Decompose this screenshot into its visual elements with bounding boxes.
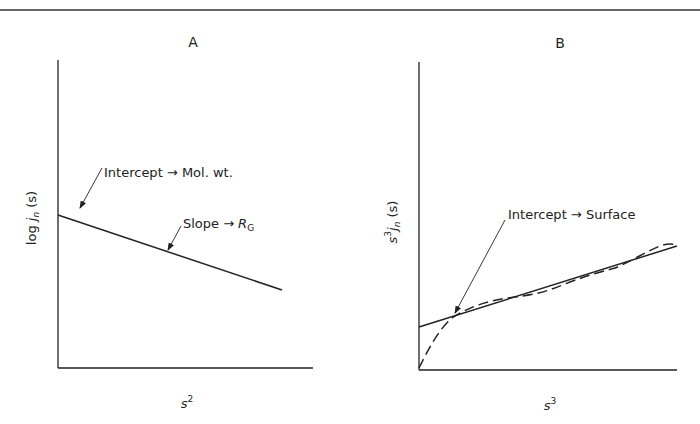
panel-a-slope-pointer (168, 226, 181, 250)
panel-b-title: B (555, 35, 565, 51)
panel-a: A log jn (s) s2 Intercept → Mol. wt. Slo… (24, 34, 313, 411)
panel-b: B s3jn (s) s3 Intercept → Surface (383, 35, 677, 413)
panel-b-y-label: s3jn (s) (383, 201, 402, 244)
arrow-right-icon: → (571, 207, 582, 222)
panel-a-intercept-pointer (80, 168, 102, 208)
arrow-right-icon: → (223, 216, 234, 231)
figure: A log jn (s) s2 Intercept → Mol. wt. Slo… (0, 0, 700, 424)
panel-a-slope-annotation: Slope →RG (183, 216, 254, 233)
arrow-right-icon: → (167, 165, 178, 180)
panel-a-title: A (188, 34, 198, 50)
panel-a-y-label: log jn (s) (24, 191, 41, 245)
panel-b-x-label: s3 (544, 396, 557, 413)
panel-a-x-label: s2 (181, 394, 194, 411)
panel-a-intercept-annotation: Intercept → Mol. wt. (104, 165, 233, 180)
panel-b-data-curve (419, 244, 677, 368)
panel-b-intercept-annotation: Intercept → Surface (508, 207, 635, 222)
